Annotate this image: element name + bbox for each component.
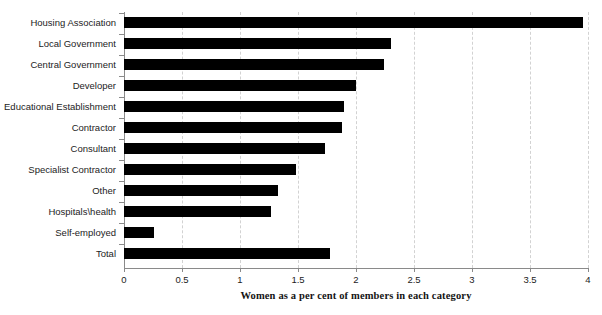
x-axis-tick: [414, 268, 415, 272]
x-axis-tick-label: 1: [237, 274, 242, 286]
y-axis-tick: [119, 13, 124, 14]
category-label: Total: [0, 243, 116, 264]
bar-row: [124, 54, 588, 75]
x-axis-tick: [182, 268, 183, 272]
bar-row: [124, 159, 588, 180]
y-axis-tick: [119, 223, 124, 224]
category-label: Educational Establishment: [0, 96, 116, 117]
gridline: [588, 12, 589, 268]
bar-row: [124, 96, 588, 117]
x-axis-tick-label: 2.5: [407, 274, 420, 286]
bar: [124, 143, 325, 154]
bar-row: [124, 12, 588, 33]
bar-row: [124, 243, 588, 264]
y-axis-tick: [119, 139, 124, 140]
bar: [124, 206, 271, 217]
y-axis-tick: [119, 97, 124, 98]
bar: [124, 17, 583, 28]
x-axis-tick-label: 2: [353, 274, 358, 286]
category-label: Other: [0, 180, 116, 201]
bar-row: [124, 201, 588, 222]
bar-row: [124, 138, 588, 159]
x-axis-title: Women as a per cent of members in each c…: [124, 290, 588, 301]
x-axis-tick-label: 1.5: [291, 274, 304, 286]
category-label: Contractor: [0, 117, 116, 138]
bar-chart: Housing AssociationLocal GovernmentCentr…: [0, 0, 602, 315]
category-label: Specialist Contractor: [0, 159, 116, 180]
bar: [124, 122, 342, 133]
category-label: Consultant: [0, 138, 116, 159]
bar: [124, 164, 296, 175]
x-axis-tick-label: 0: [121, 274, 126, 286]
category-label: Self-employed: [0, 222, 116, 243]
y-axis-tick: [119, 160, 124, 161]
x-axis-tick: [472, 268, 473, 272]
bar-row: [124, 75, 588, 96]
y-axis-tick: [119, 34, 124, 35]
category-axis-labels: Housing AssociationLocal GovernmentCentr…: [0, 12, 120, 268]
category-label: Housing Association: [0, 12, 116, 33]
bars-layer: [124, 12, 588, 268]
y-axis-tick: [119, 55, 124, 56]
x-axis-tick: [356, 268, 357, 272]
x-axis-tick-label: 3: [469, 274, 474, 286]
bar: [124, 248, 330, 259]
y-axis-tick: [119, 76, 124, 77]
y-axis-tick: [119, 244, 124, 245]
x-axis-tick-label: 3.5: [523, 274, 536, 286]
bar-row: [124, 222, 588, 243]
bar: [124, 227, 154, 238]
bar: [124, 80, 356, 91]
x-axis-tick: [530, 268, 531, 272]
x-axis-tick-label: 4: [585, 274, 590, 286]
plot-area: [124, 12, 588, 268]
category-label: Central Government: [0, 54, 116, 75]
bar-row: [124, 180, 588, 201]
x-axis-tick: [124, 268, 125, 272]
bar: [124, 185, 278, 196]
x-axis-tick-label: 0.5: [175, 274, 188, 286]
bar-row: [124, 117, 588, 138]
bar: [124, 59, 384, 70]
x-axis-tick: [298, 268, 299, 272]
y-axis-tick: [119, 181, 124, 182]
x-axis-tick: [588, 268, 589, 272]
category-label: Developer: [0, 75, 116, 96]
bar: [124, 38, 391, 49]
x-axis-tick: [240, 268, 241, 272]
bar-row: [124, 33, 588, 54]
bar: [124, 101, 344, 112]
y-axis-tick: [119, 202, 124, 203]
category-label: Local Government: [0, 33, 116, 54]
y-axis-tick: [119, 118, 124, 119]
category-label: Hospitals\health: [0, 201, 116, 222]
